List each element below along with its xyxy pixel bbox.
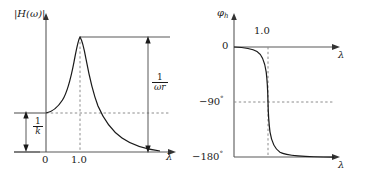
omega-r-numerator: 1 <box>152 73 168 82</box>
right-x-axis-label-bottom: λ <box>338 160 344 170</box>
phi-symbol: φ <box>217 7 224 18</box>
degree-sign-180: ° <box>219 149 223 158</box>
right-y-axis-arrowhead <box>231 13 237 20</box>
degree-sign-90: ° <box>220 94 224 103</box>
left-xtick-zero: 0 <box>42 155 48 165</box>
right-x-axis-label-top: λ <box>338 50 344 60</box>
one-over-k-span-arrow-down <box>23 145 28 153</box>
left-x-axis-label: λ <box>166 152 172 162</box>
right-ytick-zero: 0 <box>222 41 228 51</box>
one-over-k-fraction-label: 1 k <box>33 117 43 137</box>
left-xtick-one: 1.0 <box>71 155 87 165</box>
dual-response-figure: |H(ω)| 0 1.0 λ 1 ωr 1 k φh <box>0 0 371 189</box>
right-ytick-minus-90: −90° <box>199 95 224 107</box>
omega-r-fraction-label: 1 ωr <box>152 73 168 93</box>
right-y-axis-label: φh <box>217 8 229 20</box>
one-over-k-span-arrow-up <box>23 111 28 119</box>
right-xtick-one: 1.0 <box>254 26 270 36</box>
magnitude-curve <box>46 37 160 151</box>
phi-subscript: h <box>224 12 229 20</box>
magnitude-response-chart <box>0 0 186 189</box>
one-over-k-numerator: 1 <box>33 117 43 126</box>
omega-r-denominator: ωr <box>152 82 168 92</box>
right-ytick-minus-180: −180° <box>192 150 223 162</box>
one-over-k-denominator: k <box>33 126 43 136</box>
left-y-axis-label: |H(ω)| <box>14 9 45 19</box>
